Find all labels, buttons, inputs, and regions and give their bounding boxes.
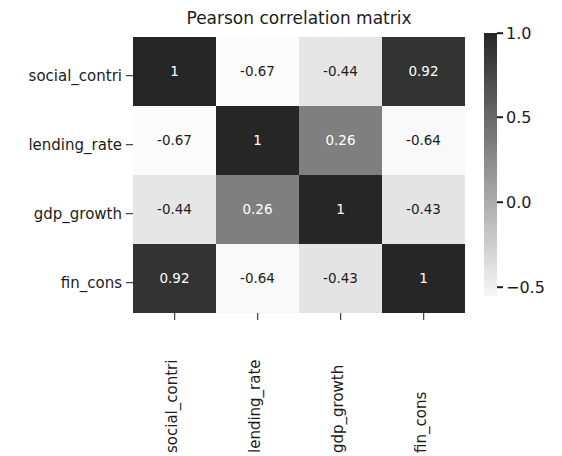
- heatmap-cell-value: 1: [170, 65, 179, 79]
- x-tick-label-fin-cons: fin_cons: [412, 392, 430, 453]
- colorbar-tick-mark-3: [497, 286, 503, 288]
- heatmap-cell-value: -0.64: [406, 134, 441, 148]
- y-axis: social_contri lending_rate gdp_growth fi…: [0, 0, 122, 456]
- heatmap-cell-value: -0.43: [323, 272, 358, 286]
- heatmap-cell: -0.64: [216, 244, 299, 313]
- x-tick-mark-3: [423, 313, 425, 320]
- heatmap-cell: 0.92: [133, 244, 216, 313]
- y-tick-mark-3: [126, 282, 133, 284]
- y-tick-label-social-contri: social_contri: [2, 67, 122, 85]
- heatmap-cell: 0.26: [299, 106, 382, 175]
- heatmap-cell: -0.67: [216, 37, 299, 106]
- x-tick-mark-0: [174, 313, 176, 320]
- y-tick-mark-0: [126, 75, 133, 77]
- heatmap-cell-value: 0.26: [242, 203, 272, 217]
- heatmap-cell-value: 0.26: [325, 134, 355, 148]
- y-tick-label-gdp-growth: gdp_growth: [2, 205, 122, 223]
- heatmap-cell-value: 1: [419, 272, 428, 286]
- colorbar-tick-label-0: 0.0: [506, 193, 531, 212]
- colorbar-gradient: [484, 33, 497, 296]
- chart-title: Pearson correlation matrix: [133, 8, 465, 28]
- heatmap-cell-value: 1: [253, 134, 262, 148]
- x-tick-label-social-contri: social_contri: [163, 360, 181, 453]
- colorbar: [484, 33, 497, 296]
- heatmap-cell-value: 0.92: [159, 272, 189, 286]
- heatmap-cell: 1: [133, 37, 216, 106]
- heatmap-cell: 0.26: [216, 175, 299, 244]
- colorbar-tick-label-1: 1.0: [506, 24, 531, 43]
- heatmap-cell-value: -0.43: [406, 203, 441, 217]
- colorbar-tick-mark-0: [497, 32, 503, 34]
- heatmap-cell: -0.44: [133, 175, 216, 244]
- heatmap-cell: -0.44: [299, 37, 382, 106]
- heatmap-cell: 1: [382, 244, 465, 313]
- heatmap-cell: 1: [299, 175, 382, 244]
- heatmap-grid: 1 -0.67 -0.44 0.92 -0.67 1 0.26 -0.64 -0…: [133, 37, 465, 313]
- heatmap-cell: 0.92: [382, 37, 465, 106]
- correlation-heatmap-figure: Pearson correlation matrix social_contri…: [0, 0, 562, 456]
- heatmap-cell-value: -0.64: [240, 272, 275, 286]
- y-tick-label-fin-cons: fin_cons: [2, 274, 122, 292]
- colorbar-tick-mark-2: [497, 201, 503, 203]
- heatmap-cell: -0.43: [299, 244, 382, 313]
- x-tick-mark-1: [257, 313, 259, 320]
- heatmap-cell: -0.64: [382, 106, 465, 175]
- heatmap-cell: -0.67: [133, 106, 216, 175]
- heatmap-cell-value: -0.44: [323, 65, 358, 79]
- x-tick-label-gdp-growth: gdp_growth: [329, 365, 347, 453]
- heatmap-cell-value: 0.92: [408, 65, 438, 79]
- y-tick-mark-2: [126, 213, 133, 215]
- y-tick-mark-1: [126, 144, 133, 146]
- colorbar-tick-mark-1: [497, 116, 503, 118]
- heatmap-cell: -0.43: [382, 175, 465, 244]
- heatmap-cell-value: 1: [336, 203, 345, 217]
- heatmap-cell-value: -0.67: [157, 134, 192, 148]
- x-tick-label-lending-rate: lending_rate: [246, 359, 264, 453]
- heatmap-cell-value: -0.44: [157, 203, 192, 217]
- y-tick-label-lending-rate: lending_rate: [2, 136, 122, 154]
- heatmap-cell-value: -0.67: [240, 65, 275, 79]
- heatmap-cell: 1: [216, 106, 299, 175]
- colorbar-tick-label-neg05: −0.5: [506, 278, 545, 297]
- colorbar-tick-label-05: 0.5: [506, 108, 531, 127]
- x-tick-mark-2: [340, 313, 342, 320]
